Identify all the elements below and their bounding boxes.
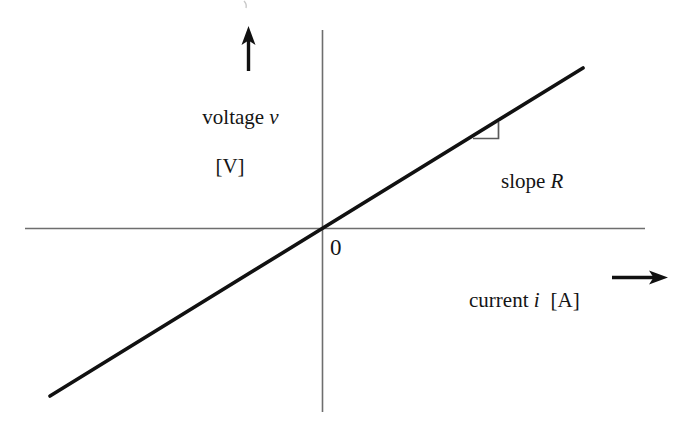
y-axis-label-name: voltage	[202, 105, 269, 129]
slope-label-text: slope	[501, 169, 551, 193]
up-arrow-icon	[242, 26, 256, 71]
x-axis-label-symbol: i	[534, 288, 540, 312]
y-axis-label-unit: [V]	[150, 155, 310, 179]
right-arrow-icon	[612, 271, 668, 285]
figure-canvas	[0, 0, 677, 434]
y-axis-label-symbol: v	[269, 105, 278, 129]
slope-label-symbol: R	[551, 169, 564, 193]
iv-curve-line	[50, 68, 583, 396]
x-axis-label-name: current	[469, 288, 534, 312]
slope-label: slope R	[480, 146, 563, 217]
scan-artifact	[244, 1, 246, 8]
origin-label: 0	[330, 235, 342, 261]
x-axis-label-unit: [A]	[551, 288, 580, 312]
y-axis-label: voltage v [V]	[150, 82, 310, 225]
x-axis-label: current i[A]	[448, 265, 580, 336]
right-triangle-icon	[473, 122, 499, 139]
iv-characteristic-figure: voltage v [V] current i[A] slope R 0	[0, 0, 677, 434]
